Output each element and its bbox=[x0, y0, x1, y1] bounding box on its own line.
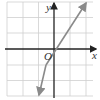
origin-label: O bbox=[44, 50, 52, 62]
graph-line-lower bbox=[39, 65, 46, 95]
y-axis-label: y bbox=[45, 1, 51, 13]
graph-line bbox=[46, 3, 86, 65]
coordinate-plane: y x O bbox=[0, 0, 100, 100]
x-axis-label: x bbox=[91, 49, 97, 61]
